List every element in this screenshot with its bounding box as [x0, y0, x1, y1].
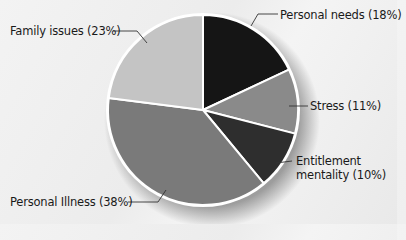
label-family-issues: Family issues (23%): [10, 24, 121, 38]
pie-slice-family-issues: [109, 15, 203, 110]
label-entitlement-line2: mentality (10%): [296, 168, 406, 182]
label-stress: Stress (11%): [310, 99, 381, 113]
pie-slices: [108, 15, 298, 205]
label-personal-illness: Personal Illness (38%): [10, 195, 132, 209]
label-personal-needs: Personal needs (18%): [280, 8, 401, 22]
label-entitlement-mentality: Entitlement mentality (10%): [296, 154, 406, 182]
label-entitlement-line1: Entitlement: [296, 154, 406, 168]
